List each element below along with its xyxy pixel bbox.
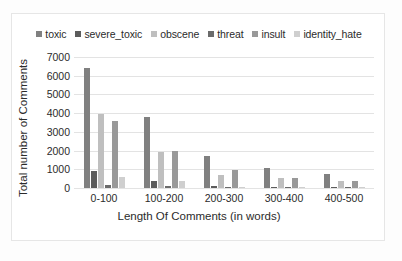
- bar-severe-toxic[interactable]: [91, 171, 97, 188]
- bar-threat[interactable]: [345, 187, 351, 188]
- bar-group: [194, 57, 254, 188]
- chart-frame: toxicsevere_toxicobscenethreatinsultiden…: [11, 13, 385, 241]
- legend-item-insult[interactable]: insult: [252, 28, 285, 40]
- bar-threat[interactable]: [285, 187, 291, 188]
- legend-label: severe_toxic: [84, 28, 142, 40]
- bar-obscene[interactable]: [158, 152, 164, 188]
- bar-toxic[interactable]: [84, 68, 90, 188]
- legend-swatch-icon: [151, 31, 157, 37]
- legend-label: threat: [217, 28, 243, 40]
- legend-swatch-icon: [252, 31, 258, 37]
- legend-item-obscene[interactable]: obscene: [151, 28, 199, 40]
- x-axis-tick-labels: 0-100100-200200-300300-400400-500: [74, 192, 374, 204]
- x-axis-tick-label: 200-300: [194, 192, 254, 204]
- legend-item-identity-hate[interactable]: identity_hate: [294, 28, 361, 40]
- bar-toxic[interactable]: [264, 168, 270, 188]
- bar-insult[interactable]: [292, 178, 298, 188]
- bar-insult[interactable]: [172, 151, 178, 188]
- bar-toxic[interactable]: [144, 117, 150, 188]
- y-axis-tick-label: 4000: [26, 107, 70, 119]
- bar-severe-toxic[interactable]: [151, 181, 157, 188]
- bar-severe-toxic[interactable]: [271, 187, 277, 188]
- bar-obscene[interactable]: [338, 181, 344, 188]
- y-axis-tick-label: 3000: [26, 126, 70, 138]
- bar-identity-hate[interactable]: [239, 187, 245, 188]
- legend-swatch-icon: [36, 31, 42, 37]
- bar-severe-toxic[interactable]: [331, 187, 337, 188]
- legend-label: identity_hate: [303, 28, 361, 40]
- bar-toxic[interactable]: [324, 174, 330, 188]
- bar-identity-hate[interactable]: [359, 187, 365, 188]
- bar-threat[interactable]: [105, 185, 111, 188]
- bar-insult[interactable]: [232, 170, 238, 188]
- bar-group: [134, 57, 194, 188]
- bar-identity-hate[interactable]: [119, 177, 125, 188]
- bar-insult[interactable]: [352, 181, 358, 188]
- bar-insult[interactable]: [112, 121, 118, 188]
- bar-obscene[interactable]: [98, 114, 104, 188]
- y-axis-tick-label: 6000: [26, 70, 70, 82]
- bar-threat[interactable]: [165, 186, 171, 188]
- bar-group: [254, 57, 314, 188]
- y-axis-tick-label: 1000: [26, 163, 70, 175]
- legend-swatch-icon: [75, 31, 81, 37]
- x-axis-tick-label: 300-400: [254, 192, 314, 204]
- legend-swatch-icon: [208, 31, 214, 37]
- chart-legend: toxicsevere_toxicobscenethreatinsultiden…: [12, 28, 386, 40]
- bar-groups: [74, 57, 374, 188]
- bar-obscene[interactable]: [278, 178, 284, 188]
- x-axis-tick-label: 0-100: [74, 192, 134, 204]
- bar-group: [314, 57, 374, 188]
- plot-wrapper: 70006000500040003000200010000: [74, 57, 374, 188]
- y-axis-tick-label: 2000: [26, 145, 70, 157]
- bar-severe-toxic[interactable]: [211, 186, 217, 188]
- legend-item-threat[interactable]: threat: [208, 28, 243, 40]
- legend-item-toxic[interactable]: toxic: [36, 28, 66, 40]
- bar-identity-hate[interactable]: [299, 187, 305, 188]
- gridline: [74, 188, 374, 189]
- legend-label: toxic: [45, 28, 66, 40]
- bar-threat[interactable]: [225, 187, 231, 188]
- bar-group: [74, 57, 134, 188]
- y-axis-tick-label: 5000: [26, 88, 70, 100]
- x-axis-title: Length Of Comments (in words): [12, 210, 386, 222]
- legend-swatch-icon: [294, 31, 300, 37]
- legend-label: obscene: [160, 28, 199, 40]
- y-axis-tick-label: 0: [26, 182, 70, 194]
- bar-toxic[interactable]: [204, 156, 210, 188]
- bar-obscene[interactable]: [218, 175, 224, 188]
- legend-label: insult: [261, 28, 285, 40]
- screenshot-root: toxicsevere_toxicobscenethreatinsultiden…: [0, 0, 402, 261]
- y-axis-tick-label: 7000: [26, 51, 70, 63]
- legend-item-severe-toxic[interactable]: severe_toxic: [75, 28, 142, 40]
- bar-identity-hate[interactable]: [179, 181, 185, 188]
- x-axis-tick-label: 400-500: [314, 192, 374, 204]
- x-axis-tick-label: 100-200: [134, 192, 194, 204]
